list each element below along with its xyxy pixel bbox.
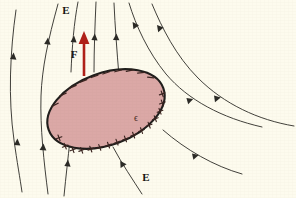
label-E-top: E xyxy=(62,4,69,16)
label-epsilon: ϵ xyxy=(134,112,138,123)
label-F: F xyxy=(71,48,78,60)
figure-canvas: E F ϵ E xyxy=(0,0,296,198)
physics-figure: E F ϵ E xyxy=(0,0,296,198)
label-E-bottom: E xyxy=(142,171,149,183)
